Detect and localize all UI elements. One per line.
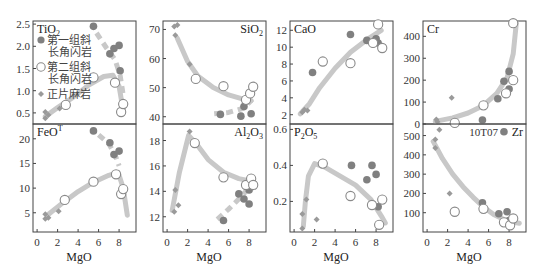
legend: 第一组斜 长角闪岩 第二组斜 长角闪岩 正片麻岩 — [37, 33, 92, 101]
marker-gneiss — [314, 216, 320, 222]
marker-group2 — [191, 74, 200, 83]
y-tick-label: 400 — [404, 149, 421, 161]
figure: 0.51.01.52.02.5TiO240506070SiO224681012C… — [0, 0, 537, 274]
y-tick-label: 40 — [149, 111, 161, 123]
marker-group1 — [247, 110, 255, 118]
marker-gneiss — [175, 202, 181, 208]
x-axis-label: MgO — [196, 250, 222, 264]
x-tick-label: 0 — [291, 236, 297, 248]
x-tick-label: 4 — [332, 236, 338, 248]
y-tick-label: 16 — [149, 160, 161, 172]
marker-group2 — [318, 159, 327, 168]
x-axis-label: MgO — [456, 250, 482, 264]
legend-group1-line1: 第一组斜 — [47, 33, 91, 47]
x-tick-label: 2 — [185, 236, 191, 248]
marker-group2 — [111, 170, 120, 179]
panel-title: CaO — [294, 22, 316, 36]
y-tick-label: 20 — [19, 133, 31, 145]
x-tick-label: 8 — [246, 236, 252, 248]
marker-group1 — [368, 162, 376, 170]
panel-title: Cr — [427, 22, 439, 36]
x-axis-label: MgO — [323, 250, 349, 264]
marker-gneiss — [436, 127, 442, 133]
y-tick-label: 2.5 — [16, 18, 30, 30]
marker-group1 — [115, 147, 123, 155]
marker-group1 — [372, 171, 380, 179]
y-tick-label: 4 — [282, 92, 288, 104]
y-tick-label: 1.0 — [16, 85, 30, 97]
legend-gneiss-label: 正片麻岩 — [47, 87, 91, 101]
marker-group1 — [500, 77, 508, 85]
panel-title: FeOT — [37, 124, 63, 139]
marker-group2 — [450, 118, 459, 127]
y-tick-label: 60 — [149, 53, 161, 65]
y-tick-label: 14 — [149, 185, 161, 197]
marker-group1 — [479, 116, 487, 124]
marker-group1 — [503, 208, 511, 216]
marker-group2 — [219, 173, 228, 182]
marker-group2 — [509, 214, 518, 223]
marker-group2 — [501, 89, 510, 98]
legend-open-circle-icon — [37, 63, 45, 71]
x-tick-label: 4 — [205, 236, 211, 248]
marker-group2 — [249, 180, 258, 189]
marker-group2 — [61, 100, 70, 109]
x-tick-label: 6 — [226, 236, 232, 248]
y-tick-label: 10 — [276, 41, 288, 53]
marker-group2 — [374, 20, 383, 29]
marker-group2 — [249, 82, 258, 91]
marker-group2 — [509, 76, 518, 85]
panel-title: Al2O3 — [234, 125, 263, 141]
y-tick-label: 0 — [415, 118, 421, 130]
x-tick-label: 0 — [164, 236, 170, 248]
panel-sio2: 40506070SiO2 — [149, 21, 266, 124]
y-tick-label: 0.2 — [273, 195, 287, 207]
legend-group1-line2: 长角闪岩 — [48, 45, 92, 59]
y-tick-label: 18 — [149, 135, 161, 147]
y-tick-label: 6 — [282, 75, 288, 87]
y-tick-label: 2 — [282, 109, 288, 121]
panel-feot: 510152002468MgOFeOT — [19, 124, 136, 264]
marker-group1 — [363, 176, 371, 184]
marker-group1 — [309, 69, 317, 77]
marker-group1 — [245, 200, 253, 208]
marker-group1 — [505, 68, 513, 76]
marker-group2 — [119, 184, 128, 193]
x-tick-label: 2 — [445, 236, 451, 248]
panels: 0.51.01.52.02.5TiO240506070SiO224681012C… — [16, 18, 526, 264]
x-tick-label: 2 — [55, 236, 61, 248]
marker-group1 — [495, 210, 503, 218]
y-tick-label: 100 — [404, 207, 421, 219]
y-tick-label: 5 — [25, 207, 31, 219]
legend-diamond-icon — [38, 91, 44, 97]
marker-group2 — [375, 220, 384, 229]
marker-group2 — [119, 99, 128, 108]
marker-group1 — [220, 217, 228, 225]
y-tick-label: 50 — [149, 82, 161, 94]
y-tick-label: 1.5 — [16, 63, 30, 75]
marker-group2 — [110, 78, 119, 87]
y-tick-label: 200 — [404, 187, 421, 199]
marker-gneiss — [447, 190, 453, 196]
marker-group2 — [219, 82, 228, 91]
marker-group2 — [479, 204, 488, 213]
legend-filled-circle-icon — [37, 36, 44, 43]
marker-group1 — [237, 112, 245, 120]
panel-title: Zr — [512, 125, 523, 139]
marker-group1 — [217, 111, 225, 119]
y-tick-label: 300 — [404, 52, 421, 64]
marker-gneiss — [449, 95, 455, 101]
x-tick-label: 2 — [312, 236, 318, 248]
y-tick-label: 100 — [404, 96, 421, 108]
x-tick-label: 8 — [506, 236, 512, 248]
marker-group2 — [367, 200, 376, 209]
y-tick-label: 0.5 — [16, 107, 30, 119]
sample-annotation: 10T07 — [469, 126, 498, 138]
marker-group2 — [368, 38, 377, 47]
marker-group1 — [90, 127, 98, 135]
y-tick-label: 500 — [404, 130, 421, 142]
x-tick-label: 8 — [116, 236, 122, 248]
y-tick-label: 0.4 — [273, 159, 287, 171]
y-tick-label: 8 — [282, 58, 288, 70]
x-tick-label: 0 — [34, 236, 40, 248]
